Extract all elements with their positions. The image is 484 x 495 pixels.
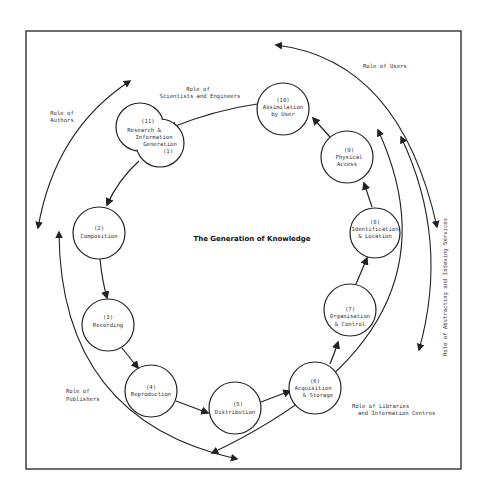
node-organisation-control: (7) Organisation & Control <box>324 284 376 336</box>
role-libraries-line2: and Information Centres <box>358 410 435 416</box>
svg-text:(9): (9) <box>344 147 354 153</box>
flow-10-to-11 <box>170 104 257 128</box>
svg-text:(2): (2) <box>94 225 104 231</box>
node-composition: (2) Composition <box>73 207 125 259</box>
node-recording: (3) Recording <box>82 299 134 351</box>
diagram-title: The Generation of Knowledge <box>193 235 310 243</box>
svg-text:(7): (7) <box>345 306 355 312</box>
svg-text:Organisation: Organisation <box>330 313 370 320</box>
svg-text:Access: Access <box>337 161 357 167</box>
flow-1-to-2 <box>107 161 139 205</box>
role-abstracting: Role of Abstracting and Indexing Service… <box>442 218 449 356</box>
node-acquisition-storage: (6) Acquisition & Storage <box>289 362 341 414</box>
flow-7-to-8 <box>356 258 367 284</box>
node-assimilation-user: (10) Assimilation by User <box>257 83 309 135</box>
svg-text:& Control: & Control <box>335 321 365 327</box>
node-physical-access: (9) Physical Access <box>321 131 373 183</box>
role-libraries-line1: Role of Libraries <box>352 403 409 409</box>
node-identification-location: (8) Identification & Location <box>350 208 400 258</box>
svg-text:Recording: Recording <box>93 322 123 329</box>
flow-2-to-3 <box>100 259 107 298</box>
svg-text:(5): (5) <box>233 401 243 407</box>
role-publishers-line2: Publishers <box>66 396 100 402</box>
svg-text:(6): (6) <box>310 378 320 384</box>
role-authors-line2: Authors <box>50 117 74 123</box>
svg-text:Physical: Physical <box>336 154 363 161</box>
svg-text:Distribution: Distribution <box>215 409 255 415</box>
role-scientists-line1: Role of <box>186 86 210 92</box>
node-1-number: (1) <box>163 148 173 154</box>
knowledge-cycle-diagram: (11) Research & Information Generation (… <box>0 0 484 495</box>
svg-text:Identification: Identification <box>351 226 398 232</box>
svg-text:(8): (8) <box>370 219 380 225</box>
node-research-generation: (11) Research & Information Generation (… <box>116 103 184 167</box>
svg-text:Reproduction: Reproduction <box>131 391 171 398</box>
role-scientists-line2: Scientists and Engineers <box>160 93 241 100</box>
svg-text:Acquisition: Acquisition <box>294 385 331 392</box>
publishers-arc <box>59 232 237 459</box>
flow-3-to-4 <box>122 348 138 368</box>
svg-text:& Location: & Location <box>358 233 392 239</box>
flow-8-to-9 <box>364 183 372 207</box>
svg-text:(3): (3) <box>103 314 113 320</box>
svg-text:(4): (4) <box>146 384 156 390</box>
svg-text:Assimilation: Assimilation <box>263 104 303 110</box>
node-distribution: (5) Distribution <box>209 382 261 434</box>
node-11-number: (11) <box>141 118 154 124</box>
flow-9-to-10 <box>313 118 330 137</box>
flow-5-to-6 <box>261 391 290 402</box>
role-publishers-line1: Role of <box>66 388 90 394</box>
authors-arc <box>38 81 130 228</box>
flow-6-to-7 <box>330 342 338 364</box>
abstracting-arc <box>401 137 431 350</box>
svg-text:(10): (10) <box>276 97 289 103</box>
svg-text:Composition: Composition <box>80 233 117 240</box>
svg-text:by User: by User <box>271 111 295 118</box>
node-11-line3: Generation <box>143 141 177 147</box>
role-authors-line1: Role of <box>50 110 74 116</box>
flow-4-to-5 <box>176 401 208 413</box>
role-users: Role of Users <box>363 63 407 69</box>
node-11-line1: Research & <box>127 127 161 133</box>
svg-text:& Storage: & Storage <box>303 392 334 399</box>
node-reproduction: (4) Reproduction <box>125 365 177 417</box>
node-11-line2: Information <box>135 134 172 140</box>
